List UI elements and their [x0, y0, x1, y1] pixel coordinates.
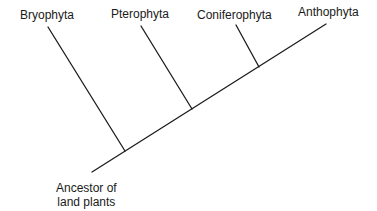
taxon-label-coniferophyta: Coniferophyta	[197, 8, 272, 22]
main-trunk-line	[92, 24, 326, 172]
bryophyta-branch-line	[48, 27, 125, 151]
pterophyta-branch-line	[141, 26, 192, 109]
taxon-label-anthophyta: Anthophyta	[298, 5, 359, 19]
root-label-line1: Ancestor of	[56, 181, 117, 195]
cladogram-lines	[0, 0, 377, 211]
cladogram: Bryophyta Pterophyta Coniferophyta Antho…	[0, 0, 377, 211]
coniferophyta-branch-line	[236, 25, 259, 67]
taxon-label-pterophyta: Pterophyta	[111, 7, 169, 21]
root-label-line2: land plants	[56, 195, 117, 209]
root-label: Ancestor of land plants	[56, 181, 117, 209]
taxon-label-bryophyta: Bryophyta	[20, 8, 74, 22]
